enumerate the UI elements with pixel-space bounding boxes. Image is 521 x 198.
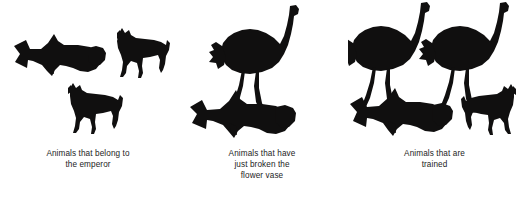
caption-line: Animals that belong to (0, 148, 176, 159)
caption-line: just broken the (176, 159, 348, 170)
hammerhead-shark-icon (350, 88, 453, 136)
caption-line: flower vase (176, 170, 348, 181)
caption-line: Animals that are (348, 148, 521, 159)
group-caption: Animals that have just broken the flower… (176, 148, 348, 182)
ostrich-icon (348, 2, 430, 113)
group-caption: Animals that are trained (348, 148, 521, 170)
animal-category-figure: Animals that belong to the emperor (0, 0, 521, 198)
category-group-emperor: Animals that belong to the emperor (0, 0, 176, 198)
caption-line: the emperor (0, 159, 176, 170)
ostrich-icon (209, 5, 299, 116)
category-group-flower-vase: Animals that have just broken the flower… (176, 0, 348, 198)
hammerhead-shark-icon (190, 90, 296, 138)
horse-icon (117, 28, 170, 78)
horse-icon (68, 83, 123, 134)
group-caption: Animals that belong to the emperor (0, 148, 176, 170)
silhouette-art-group-2 (348, 0, 521, 145)
hammerhead-shark-icon (14, 34, 106, 76)
caption-line: trained (348, 159, 521, 170)
caption-line: Animals that have (176, 148, 348, 159)
silhouette-art-group-0 (0, 0, 176, 145)
category-group-trained: Animals that are trained (348, 0, 521, 198)
silhouette-art-group-1 (176, 0, 348, 145)
